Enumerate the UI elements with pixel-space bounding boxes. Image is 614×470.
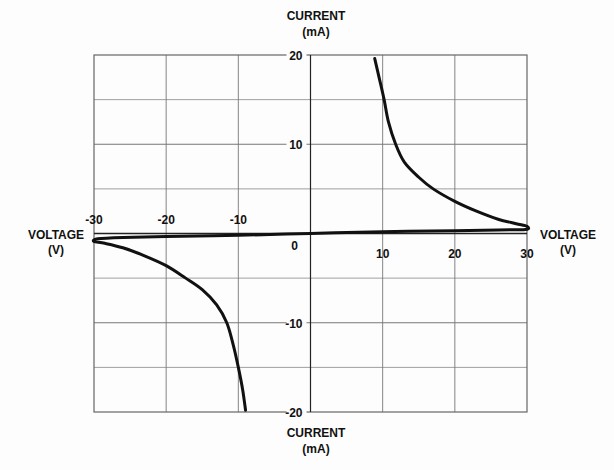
x-tick-label: 10 — [376, 247, 390, 261]
x-tick-label: -30 — [85, 213, 103, 227]
x-axis-label-right: VOLTAGE — [540, 228, 596, 242]
x-axis-unit-right: (V) — [560, 243, 576, 257]
x-tick-label: -10 — [230, 213, 248, 227]
x-tick-label: 20 — [448, 247, 462, 261]
y-tick-label: -10 — [285, 317, 303, 331]
x-axis-unit-left: (V) — [48, 243, 64, 257]
y-axis-label-top: CURRENT — [287, 9, 346, 23]
y-tick-label: 10 — [289, 138, 303, 152]
x-tick-label: -20 — [157, 213, 175, 227]
x-axis-label-left: VOLTAGE — [28, 228, 84, 242]
y-axis-unit-bottom: (mA) — [302, 442, 329, 456]
x-tick-label: 0 — [291, 239, 298, 253]
y-tick-label: 20 — [289, 49, 303, 63]
y-axis-label-bottom: CURRENT — [287, 426, 346, 440]
iv-chart: 2010-10-20-30-20-100102030 CURRENT (mA) … — [0, 0, 614, 470]
y-axis-unit-top: (mA) — [302, 25, 329, 39]
y-tick-label: -20 — [285, 406, 303, 420]
x-tick-label: 30 — [520, 247, 534, 261]
